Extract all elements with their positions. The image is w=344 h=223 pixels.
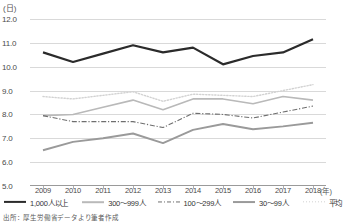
legend-swatch (233, 199, 255, 206)
y-axis-tick-label: 10.0 (2, 62, 17, 71)
x-axis-tickmark (133, 186, 134, 189)
x-axis-tickmark (253, 186, 254, 189)
y-axis-tick-label: 5.0 (2, 182, 13, 191)
legend-label: 1,000人以上 (30, 197, 68, 208)
chart-legend: 1,000人以上300～999人100～299人30～99人平均 (4, 196, 340, 208)
series-line (43, 123, 313, 150)
y-axis-tick-label: 11.0 (2, 38, 16, 47)
x-axis-tickmark (103, 186, 104, 189)
x-axis-tickmark (73, 186, 74, 189)
legend-label: 平均 (329, 197, 343, 208)
series-line (43, 39, 313, 64)
x-axis-unit-label: (年) (320, 185, 332, 196)
series-line (43, 97, 313, 116)
legend-swatch (4, 199, 26, 206)
legend-item[interactable]: 30～99人 (233, 197, 289, 208)
x-axis-tickmark (43, 186, 44, 189)
source-note: 出所：厚生労働省データより筆者作成 (3, 212, 119, 222)
legend-label: 30～99人 (259, 197, 289, 208)
x-axis-tickmark (193, 186, 194, 189)
y-axis-tick-label: 12.0 (2, 15, 17, 24)
x-axis-tickmark (283, 186, 284, 189)
legend-swatch (82, 199, 104, 206)
series-line (43, 106, 313, 127)
y-axis-tick-label: 9.0 (2, 86, 13, 95)
x-axis-tickmark (163, 186, 164, 189)
legend-swatch (158, 199, 180, 206)
y-axis-tick-label: 6.0 (2, 158, 13, 167)
legend-label: 100～299人 (184, 197, 221, 208)
y-axis-tick-label: 8.0 (2, 110, 13, 119)
legend-item[interactable]: 平均 (303, 197, 343, 208)
legend-swatch (303, 199, 325, 206)
y-axis-tick-label: 7.0 (2, 134, 13, 143)
x-axis-tickmark (313, 186, 314, 189)
legend-item[interactable]: 100～299人 (158, 197, 221, 208)
x-axis-tickmark (223, 186, 224, 189)
chart-container: (日) (年) 12.011.010.09.08.07.06.05.0 2009… (0, 0, 344, 223)
series-lines (30, 19, 326, 186)
legend-label: 300～999人 (108, 197, 145, 208)
plot-area (30, 19, 326, 186)
y-axis-unit-label: (日) (3, 2, 16, 13)
legend-item[interactable]: 1,000人以上 (4, 197, 68, 208)
legend-item[interactable]: 300～999人 (82, 197, 145, 208)
